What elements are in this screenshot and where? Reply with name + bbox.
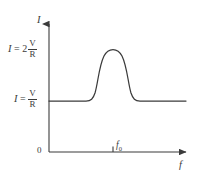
y-tick-label-peak: I = 2 V R bbox=[8, 39, 37, 59]
y-axis-label: I bbox=[37, 15, 41, 26]
x-tick-label-f0: f0 bbox=[116, 141, 122, 152]
equation-baseline-relation: = bbox=[20, 94, 26, 104]
equation-baseline-symbol: I bbox=[14, 94, 18, 105]
equation-peak-coefficient: 2 bbox=[22, 44, 27, 54]
equation-peak: I = 2 V R bbox=[8, 39, 37, 59]
resonance-curve-figure: I I = 2 V R I = V R 0 f0 f bbox=[0, 0, 197, 177]
equation-baseline: I = V R bbox=[14, 89, 37, 109]
y-tick-label-baseline: I = V R bbox=[14, 89, 37, 109]
fraction-baseline-denominator: R bbox=[28, 100, 36, 110]
fraction-peak-denominator: R bbox=[28, 50, 36, 60]
fraction-baseline: V R bbox=[28, 89, 37, 109]
equation-peak-symbol: I bbox=[8, 44, 12, 55]
origin-label: 0 bbox=[37, 146, 42, 155]
equation-peak-relation: = bbox=[14, 44, 20, 54]
resonance-curve-line bbox=[49, 50, 186, 102]
fraction-peak: V R bbox=[28, 39, 37, 59]
x-axis-label: f bbox=[179, 160, 182, 171]
x-tick-f0-subscript: 0 bbox=[119, 145, 122, 152]
fraction-baseline-numerator: V bbox=[28, 89, 37, 99]
fraction-peak-numerator: V bbox=[28, 39, 37, 49]
